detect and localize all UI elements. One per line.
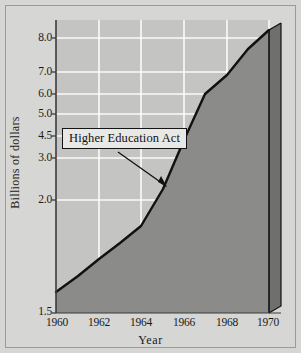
- ytick-label-8-0: 8.0: [2, 32, 52, 43]
- side-panel-3d: [269, 23, 281, 313]
- xtick-label-1960: 1960: [46, 316, 68, 328]
- annotation-callout-higher-education-act: Higher Education Act: [62, 128, 187, 149]
- y-axis-title: Billions of dollars: [8, 83, 23, 243]
- x-axis-title: Year: [0, 333, 301, 348]
- x-axis-tick-labels: 1960 1962 1964 1966 1968 1970: [0, 316, 301, 332]
- xtick-label-1962: 1962: [88, 316, 110, 328]
- chart-figure: 8.0 7.0 6.0 5.0 4.5 3.0 2.0 1.5 1960 196…: [0, 0, 301, 353]
- xtick-label-1964: 1964: [130, 316, 152, 328]
- xtick-label-1968: 1968: [216, 316, 238, 328]
- xtick-label-1966: 1966: [173, 316, 195, 328]
- xtick-label-1970: 1970: [257, 316, 279, 328]
- ytick-label-7-0: 7.0: [2, 66, 52, 77]
